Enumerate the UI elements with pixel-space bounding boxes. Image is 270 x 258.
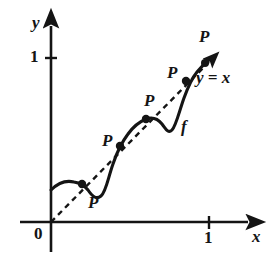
y-tick-label-1: 1: [30, 48, 39, 65]
fixed-point-5: [201, 59, 209, 67]
function-label-f: f: [181, 118, 187, 135]
fixed-point-label-5: P: [199, 28, 209, 45]
origin-label: 0: [34, 225, 43, 242]
x-axis-label: x: [252, 228, 261, 245]
fixed-point-label-2: P: [102, 132, 112, 149]
x-tick-label-1: 1: [204, 229, 213, 246]
fixed-point-3: [142, 115, 150, 123]
fixed-point-2: [116, 142, 124, 150]
fixed-point-label-3: P: [144, 92, 154, 109]
identity-line: [51, 62, 209, 222]
identity-line-label: y = x: [196, 69, 230, 86]
y-axis-label: y: [32, 14, 40, 31]
fixed-point-1: [78, 180, 86, 188]
fixed-point-diagram: y x 1 1 0 P P P P P f y = x: [0, 0, 270, 258]
fixed-point-4: [182, 77, 190, 85]
fixed-point-label-4: P: [167, 64, 177, 81]
fixed-point-label-1: P: [88, 194, 98, 211]
diagram-canvas: [0, 0, 270, 258]
